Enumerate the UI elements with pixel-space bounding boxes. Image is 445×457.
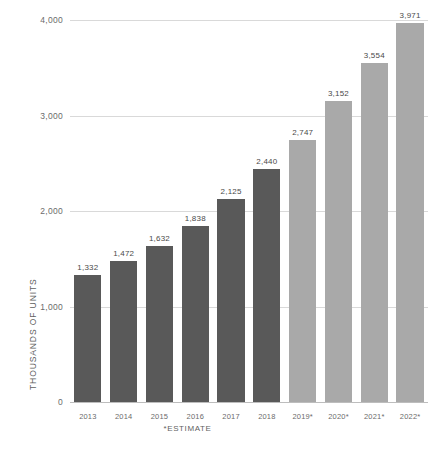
bar-2019-est[interactable]	[289, 140, 316, 402]
bar-2022-est[interactable]	[396, 23, 423, 402]
bar-value-label: 2,125	[221, 187, 242, 196]
x-axis-tick-label: 2022*	[400, 412, 421, 421]
bar-2020-est[interactable]	[325, 101, 352, 402]
bar-value-label: 3,554	[364, 51, 385, 60]
x-axis-tick-label: 2021*	[364, 412, 385, 421]
x-axis-tick-label: 2017	[222, 412, 240, 421]
bar-2021-est[interactable]	[361, 63, 388, 402]
y-axis-title: THOUSANDS OF UNITS	[26, 150, 40, 390]
bar-value-label: 2,747	[292, 128, 313, 137]
x-axis-tick-label: 2020*	[328, 412, 349, 421]
bar-group: 1,6322015	[146, 20, 173, 402]
bar-2015[interactable]	[146, 246, 173, 402]
bar-value-label: 3,152	[328, 89, 349, 98]
y-axis-tick-label: 0	[58, 397, 63, 407]
x-axis-tick-label: 2013	[79, 412, 97, 421]
bar-value-label: 1,838	[185, 214, 206, 223]
bar-group: 3,5542021*	[361, 20, 388, 402]
bar-group: 2,1252017	[217, 20, 244, 402]
x-axis-tick-label: 2014	[115, 412, 133, 421]
bar-2013[interactable]	[74, 275, 101, 402]
y-axis-tick-label: 3,000	[40, 111, 63, 121]
x-axis-tick-label: 2019*	[292, 412, 313, 421]
bar-group: 2,7472019*	[289, 20, 316, 402]
x-axis-tick-label: 2016	[187, 412, 205, 421]
y-axis-tick-label: 2,000	[40, 206, 63, 216]
bar-value-label: 1,472	[113, 249, 134, 258]
x-axis-tick-label: 2015	[151, 412, 169, 421]
bar-value-label: 3,971	[400, 11, 421, 20]
bar-group: 1,4722014	[110, 20, 137, 402]
bar-group: 1,3322013	[74, 20, 101, 402]
bar-group: 1,8382016	[182, 20, 209, 402]
bar-series: 1,33220131,47220141,63220151,83820162,12…	[70, 20, 428, 402]
bar-2016[interactable]	[182, 226, 209, 402]
bar-group: 2,4402018	[253, 20, 280, 402]
bar-2017[interactable]	[217, 199, 244, 402]
bar-2014[interactable]	[110, 261, 137, 402]
bar-group: 3,1522020*	[325, 20, 352, 402]
bar-group: 3,9712022*	[396, 20, 423, 402]
y-axis-tick-label: 1,000	[40, 302, 63, 312]
bar-value-label: 1,332	[77, 263, 98, 272]
y-axis-tick-label: 4,000	[40, 15, 63, 25]
axis-baseline: 0	[70, 402, 428, 403]
bar-value-label: 1,632	[149, 234, 170, 243]
bar-2018[interactable]	[253, 169, 280, 402]
x-axis-tick-label: 2018	[258, 412, 276, 421]
footnote: *ESTIMATE	[0, 424, 445, 433]
bar-chart: THOUSANDS OF UNITS 01,0002,0003,0004,000…	[0, 0, 445, 457]
bar-value-label: 2,440	[256, 157, 277, 166]
plot-area: 01,0002,0003,0004,000 1,33220131,4722014…	[70, 20, 428, 402]
